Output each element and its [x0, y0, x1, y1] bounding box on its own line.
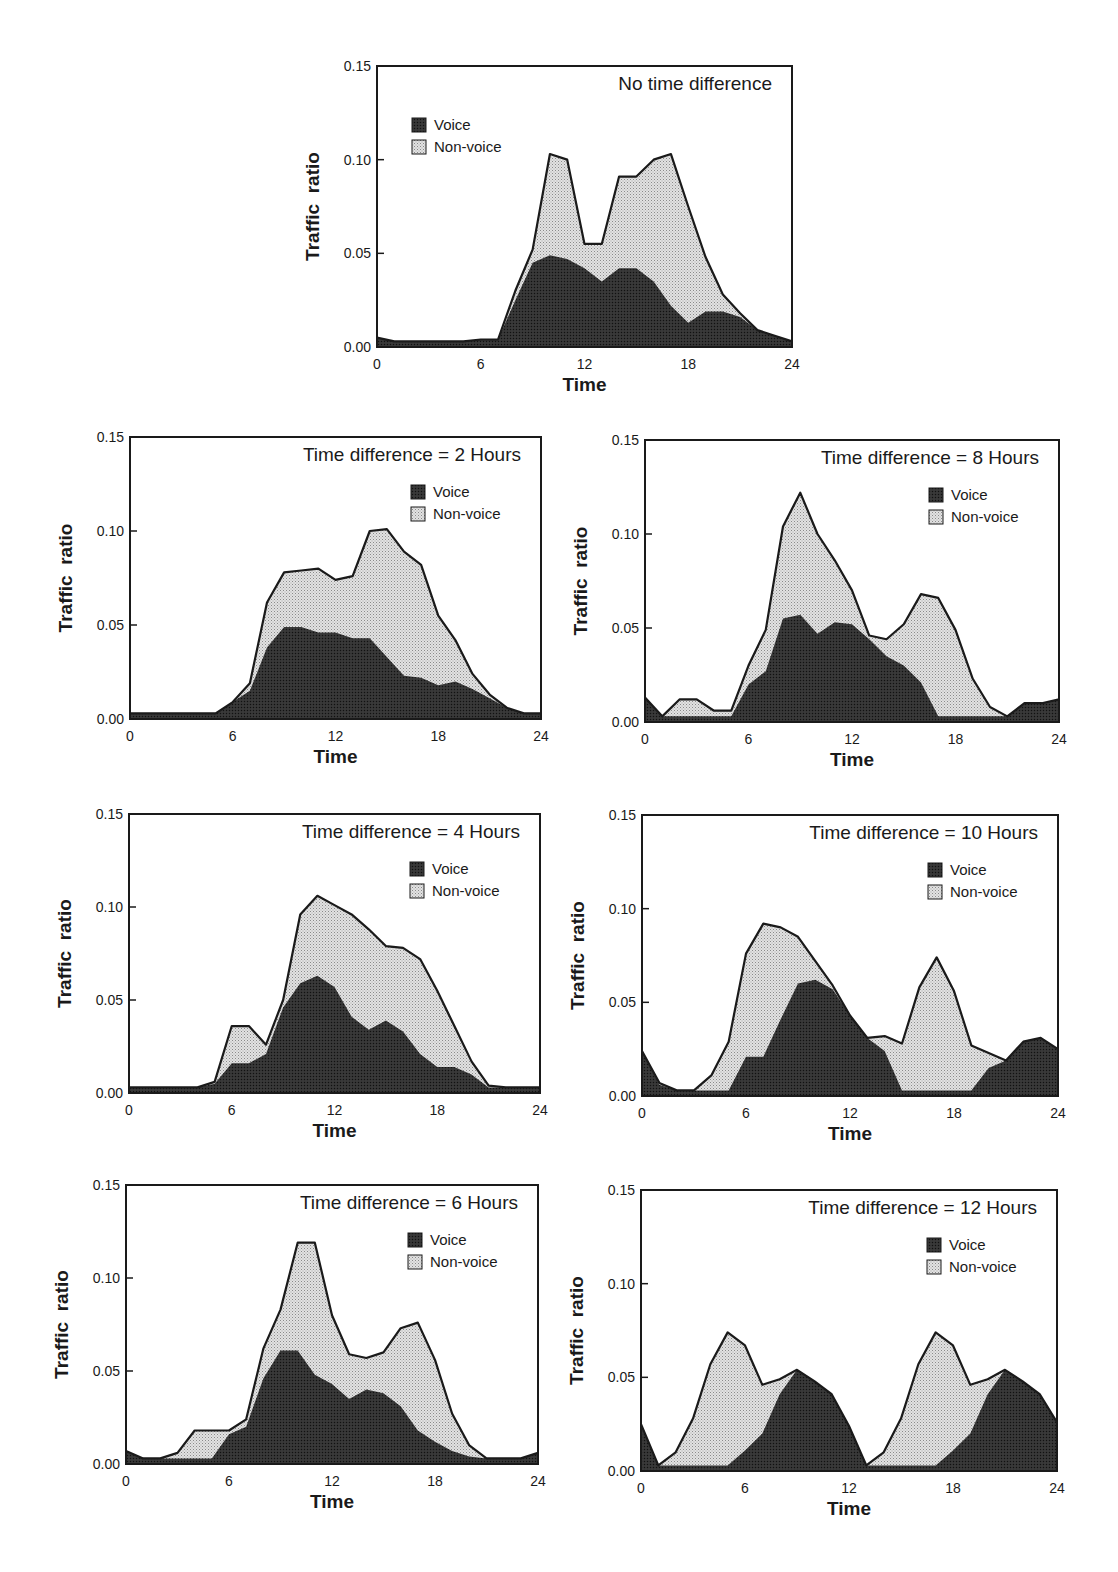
x-axis-title: Time [310, 1491, 354, 1512]
x-tick-label: 24 [532, 1102, 548, 1118]
legend-nonvoice-label: Non-voice [434, 138, 502, 155]
y-tick-label: 0.00 [93, 1456, 120, 1472]
chart-svg: 0.000.050.100.1506121824TimeTraffic rati… [560, 800, 1088, 1156]
x-tick-label: 24 [1051, 731, 1067, 747]
legend-voice-swatch [927, 1238, 941, 1252]
x-tick-label: 6 [745, 731, 753, 747]
y-tick-label: 0.15 [93, 1177, 120, 1193]
y-tick-label: 0.10 [96, 899, 123, 915]
legend-nonvoice-label: Non-voice [949, 1258, 1017, 1275]
chart-panel-8-hours: 0.000.050.100.1506121824TimeTraffic rati… [560, 425, 1089, 782]
legend-voice-label: Voice [432, 860, 469, 877]
y-tick-label: 0.15 [97, 429, 124, 445]
x-tick-label: 12 [328, 728, 344, 744]
y-tick-label: 0.05 [344, 245, 371, 261]
y-axis-title: Traffic ratio [567, 901, 588, 1010]
x-tick-label: 0 [638, 1105, 646, 1121]
chart-panel-6-hours: 0.000.050.100.1506121824TimeTraffic rati… [40, 1170, 568, 1524]
x-tick-label: 12 [842, 1105, 858, 1121]
legend-nonvoice-label: Non-voice [950, 883, 1018, 900]
legend-nonvoice-swatch [411, 507, 425, 521]
y-tick-label: 0.10 [609, 901, 636, 917]
legend-nonvoice-swatch [927, 1260, 941, 1274]
legend-voice-label: Voice [950, 861, 987, 878]
legend-voice-swatch [411, 485, 425, 499]
x-tick-label: 6 [742, 1105, 750, 1121]
y-axis-title: Traffic ratio [55, 524, 76, 633]
x-tick-label: 6 [477, 356, 485, 372]
legend-voice-swatch [412, 118, 426, 132]
legend-voice-label: Voice [430, 1231, 467, 1248]
y-axis-title: Traffic ratio [570, 527, 591, 636]
legend-voice-swatch [410, 862, 424, 876]
x-tick-label: 12 [327, 1102, 343, 1118]
x-tick-label: 12 [577, 356, 593, 372]
y-tick-label: 0.05 [96, 992, 123, 1008]
x-tick-label: 24 [1050, 1105, 1066, 1121]
legend-voice-swatch [408, 1233, 422, 1247]
y-tick-label: 0.15 [96, 806, 123, 822]
x-tick-label: 0 [637, 1480, 645, 1496]
legend-voice-swatch [928, 863, 942, 877]
y-tick-label: 0.10 [344, 152, 371, 168]
y-tick-label: 0.05 [93, 1363, 120, 1379]
y-tick-label: 0.10 [608, 1276, 635, 1292]
chart-panel-2-hours: 0.000.050.100.1506121824TimeTraffic rati… [40, 425, 571, 779]
y-tick-label: 0.05 [608, 1369, 635, 1385]
legend-nonvoice-label: Non-voice [433, 505, 501, 522]
x-tick-label: 6 [229, 728, 237, 744]
x-tick-label: 6 [225, 1473, 233, 1489]
chart-svg: 0.000.050.100.1506121824TimeTraffic rati… [40, 425, 571, 779]
chart-svg: 0.000.050.100.1506121824TimeTraffic rati… [300, 50, 822, 407]
voice-area [130, 627, 541, 719]
y-tick-label: 0.15 [344, 58, 371, 74]
y-axis-title: Traffic ratio [302, 152, 323, 261]
chart-svg: 0.000.050.100.1506121824TimeTraffic rati… [560, 425, 1089, 782]
x-tick-label: 18 [430, 728, 446, 744]
x-tick-label: 24 [784, 356, 800, 372]
x-tick-label: 12 [844, 731, 860, 747]
legend-nonvoice-label: Non-voice [430, 1253, 498, 1270]
legend-nonvoice-label: Non-voice [432, 882, 500, 899]
legend-nonvoice-swatch [412, 140, 426, 154]
x-tick-label: 6 [741, 1480, 749, 1496]
y-tick-label: 0.00 [612, 714, 639, 730]
y-tick-label: 0.10 [93, 1270, 120, 1286]
legend-nonvoice-swatch [928, 885, 942, 899]
x-tick-label: 18 [429, 1102, 445, 1118]
panel-title: Time difference = 2 Hours [303, 444, 521, 465]
x-axis-title: Time [827, 1498, 871, 1519]
panel-title: Time difference = 10 Hours [809, 822, 1038, 843]
x-axis-title: Time [313, 746, 357, 767]
legend-voice-label: Voice [951, 486, 988, 503]
x-tick-label: 6 [228, 1102, 236, 1118]
y-tick-label: 0.15 [608, 1182, 635, 1198]
y-axis-title: Traffic ratio [54, 899, 75, 1008]
legend-nonvoice-label: Non-voice [951, 508, 1019, 525]
chart-svg: 0.000.050.100.1506121824TimeTraffic rati… [40, 1170, 568, 1524]
x-axis-title: Time [562, 374, 606, 395]
x-tick-label: 0 [373, 356, 381, 372]
legend-voice-label: Voice [949, 1236, 986, 1253]
x-tick-label: 18 [948, 731, 964, 747]
legend-nonvoice-swatch [408, 1255, 422, 1269]
y-tick-label: 0.10 [612, 526, 639, 542]
y-axis-title: Traffic ratio [51, 1270, 72, 1379]
panel-title: Time difference = 12 Hours [808, 1197, 1037, 1218]
x-tick-label: 24 [530, 1473, 546, 1489]
y-axis-title: Traffic ratio [566, 1276, 587, 1385]
x-tick-label: 0 [125, 1102, 133, 1118]
y-tick-label: 0.05 [97, 617, 124, 633]
x-tick-label: 18 [680, 356, 696, 372]
legend-nonvoice-swatch [929, 510, 943, 524]
panel-title: Time difference = 4 Hours [302, 821, 520, 842]
y-tick-label: 0.00 [96, 1085, 123, 1101]
y-tick-label: 0.00 [609, 1088, 636, 1104]
chart-svg: 0.000.050.100.1506121824TimeTraffic rati… [560, 1170, 1087, 1531]
x-axis-title: Time [312, 1120, 356, 1141]
x-tick-label: 24 [533, 728, 549, 744]
x-tick-label: 24 [1049, 1480, 1065, 1496]
x-tick-label: 12 [324, 1473, 340, 1489]
y-tick-label: 0.00 [97, 711, 124, 727]
x-tick-label: 18 [945, 1480, 961, 1496]
